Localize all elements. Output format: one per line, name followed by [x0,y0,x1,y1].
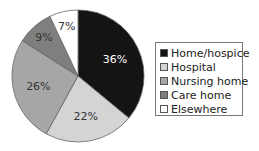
slice-label: 36% [103,53,127,66]
legend-swatch [160,63,168,71]
legend-swatch [160,49,168,57]
slice-label: 9% [35,31,52,44]
legend-swatch [160,91,168,99]
legend-item: Nursing home [160,74,242,88]
slice-label: 7% [58,20,75,33]
legend-swatch [160,77,168,85]
legend: Home/hospice Hospital Nursing home Care … [155,42,243,116]
legend-swatch [160,105,168,113]
legend-item: Home/hospice [160,46,242,60]
pie-chart: 36%22%26%9%7% [0,0,160,151]
slice-label: 22% [73,110,97,123]
legend-item: Elsewhere [160,102,242,116]
slice-label: 26% [26,80,50,93]
legend-item: Hospital [160,60,242,74]
legend-item: Care home [160,88,242,102]
